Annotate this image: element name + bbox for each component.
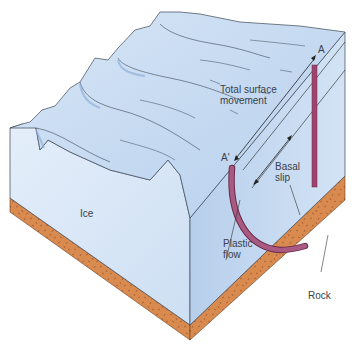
glacier-diagram [0,0,356,354]
label-plastic-flow-line2: flow [223,249,252,260]
label-rock: Rock [308,290,331,301]
label-plastic-flow: Plastic flow [223,238,252,260]
marker-rod-original [312,65,317,187]
label-total-surface-movement-line1: Total surface [220,84,277,95]
label-total-surface-movement-line2: movement [220,95,277,106]
label-plastic-flow-line1: Plastic [223,238,252,249]
label-ice: Ice [80,208,93,219]
label-basal-slip: Basal slip [275,161,300,183]
label-total-surface-movement: Total surface movement [220,84,277,106]
label-point-a: A [318,44,325,55]
label-basal-slip-line2: slip [275,172,300,183]
label-point-a-prime: A' [221,152,230,163]
label-basal-slip-line1: Basal [275,161,300,172]
